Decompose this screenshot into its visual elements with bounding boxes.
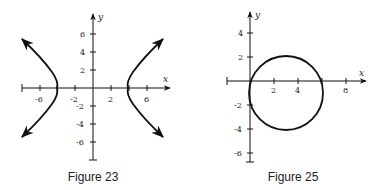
figure-25-plot: x y 2 4 8 4 2 -2 -4 -6 — [227, 10, 366, 162]
y-tick-label: -4 — [234, 125, 242, 134]
x-axis-label: x — [359, 68, 364, 78]
figure-25-caption: Figure 25 — [233, 170, 353, 184]
y-tick-label: 4 — [80, 48, 85, 57]
x-tick-label: -6 — [35, 95, 43, 104]
y-axis-label: y — [254, 10, 261, 20]
y-tick-label: -2 — [76, 102, 84, 111]
x-tick-label: 2 — [108, 95, 113, 104]
y-tick-label: 6 — [80, 30, 85, 39]
y-tick-label: -4 — [76, 120, 84, 129]
figure-23-caption: Figure 23 — [33, 170, 153, 184]
circle-curve — [249, 56, 323, 130]
x-tick-label: 6 — [144, 95, 149, 104]
y-tick-label: 2 — [80, 66, 85, 75]
y-tick-label: -6 — [234, 149, 242, 158]
x-tick-label: 2 — [271, 86, 276, 95]
y-tick-label: 4 — [238, 29, 243, 38]
figures-canvas: x y -6 -2 2 6 6 4 2 -2 -4 -6 — [0, 0, 383, 190]
y-tick-label: -6 — [76, 138, 84, 147]
x-axis-label: x — [163, 74, 168, 84]
y-tick-label: 2 — [238, 53, 243, 62]
x-axis — [22, 84, 170, 92]
x-tick-label: 8 — [343, 86, 348, 95]
y-tick-label: -2 — [234, 101, 242, 110]
y-axis — [89, 14, 97, 160]
figure-23-plot: x y -6 -2 2 6 6 4 2 -2 -4 -6 — [22, 12, 170, 160]
x-tick-label: 4 — [295, 86, 300, 95]
x-axis — [227, 77, 366, 85]
y-axis-label: y — [97, 12, 104, 22]
